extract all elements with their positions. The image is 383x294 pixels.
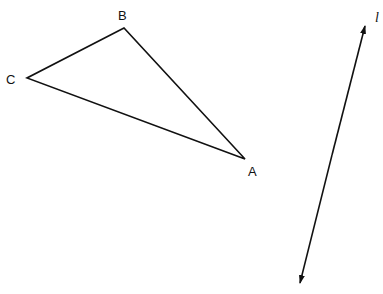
line-label-l: l (375, 10, 379, 25)
vertex-label-b: B (118, 8, 127, 23)
vertex-label-c: C (6, 72, 15, 87)
triangle-abc (27, 28, 245, 159)
vertex-label-a: A (248, 164, 257, 179)
geometry-figure: B C A l (0, 0, 383, 294)
diagram-canvas: B C A l (0, 0, 383, 294)
line-l-lower (300, 155, 332, 283)
line-l (332, 26, 365, 155)
